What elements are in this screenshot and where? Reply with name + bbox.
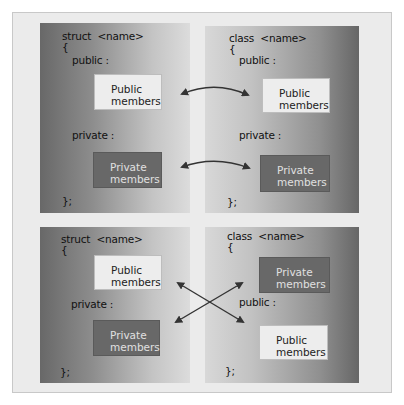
open-brace: { <box>227 242 233 253</box>
struct-panel-bottom: struct <name> { Public members private :… <box>40 227 190 383</box>
struct-header: struct <name> <box>61 234 143 245</box>
public-label: public : <box>72 55 109 66</box>
box-line: Private <box>110 161 161 173</box>
box-line: members <box>279 99 329 111</box>
box-line: Public <box>279 87 329 99</box>
box-line: members <box>276 278 329 290</box>
struct-panel-top: struct <name> { public : Public members … <box>40 23 190 213</box>
close-brace: }; <box>60 367 70 378</box>
class-panel-bottom: class <name> { Private members public : … <box>205 227 359 383</box>
box-line: Public <box>111 83 161 95</box>
public-members-box: Public members <box>259 325 328 360</box>
class-header: class <name> <box>229 33 307 44</box>
box-line: members <box>110 341 159 353</box>
box-line: members <box>110 173 161 185</box>
private-members-box: Private members <box>260 155 330 192</box>
close-brace: }; <box>227 197 237 208</box>
open-brace: { <box>62 42 68 53</box>
private-members-box: Private members <box>259 257 330 293</box>
box-line: Private <box>110 329 159 341</box>
public-members-box: Public members <box>262 78 330 113</box>
class-panel-top: class <name> { public : Public members p… <box>205 26 359 213</box>
close-brace: }; <box>225 366 235 377</box>
box-line: Private <box>277 164 329 176</box>
box-line: Private <box>276 266 329 278</box>
private-members-box: Private members <box>93 320 160 356</box>
class-header: class <name> <box>227 231 305 242</box>
close-brace: }; <box>62 196 72 207</box>
public-label: public : <box>239 55 276 66</box>
box-line: Public <box>276 334 327 346</box>
public-label: public : <box>239 297 276 308</box>
private-label: private : <box>71 299 113 310</box>
open-brace: { <box>229 44 235 55</box>
private-members-box: Private members <box>93 152 162 188</box>
private-label: private : <box>72 130 114 141</box>
box-line: Public <box>111 264 161 276</box>
box-line: members <box>111 95 161 107</box>
box-line: members <box>277 176 329 188</box>
box-line: members <box>276 346 327 358</box>
box-line: members <box>111 276 161 288</box>
public-members-box: Public members <box>94 74 162 110</box>
struct-header: struct <name> <box>62 31 144 42</box>
private-label: private : <box>239 130 281 141</box>
open-brace: { <box>61 245 67 256</box>
public-members-box: Public members <box>94 255 162 290</box>
